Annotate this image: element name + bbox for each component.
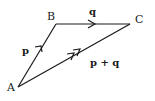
vector-label-p: p <box>22 45 29 56</box>
vector-p-plus-q <box>18 24 130 87</box>
diagram-canvas: A B C p q p + q <box>0 0 155 101</box>
point-label-b: B <box>47 10 55 23</box>
point-label-c: C <box>135 13 143 26</box>
vector-addition-diagram: A B C p q p + q <box>0 0 155 101</box>
arrowhead-icon <box>35 46 42 52</box>
vector-q <box>56 20 130 28</box>
point-label-a: A <box>6 81 16 94</box>
vector-label-p-plus-q: p + q <box>90 57 119 68</box>
vector-label-q: q <box>89 6 96 17</box>
